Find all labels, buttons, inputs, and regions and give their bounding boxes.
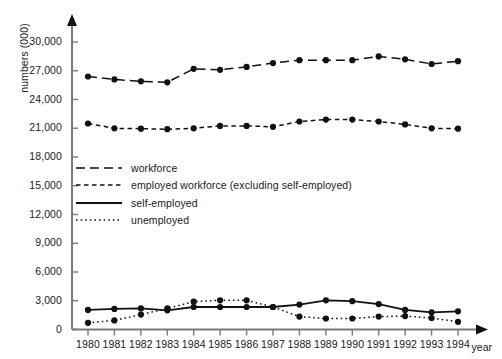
legend-label: workforce xyxy=(131,162,177,174)
legend-label: employed workforce (excluding self-emplo… xyxy=(131,179,352,191)
legend-label: self-employed xyxy=(131,197,198,209)
legend-line-swatch xyxy=(76,215,122,225)
legend-item: unemployed xyxy=(76,212,352,230)
legend-line-swatch xyxy=(76,163,122,173)
series-employed xyxy=(85,117,461,133)
series-workforce xyxy=(85,53,461,85)
legend-line-swatch xyxy=(76,180,122,190)
legend-label: unemployed xyxy=(131,214,189,226)
chart-legend: workforceemployed workforce (excluding s… xyxy=(76,159,352,229)
legend-item: workforce xyxy=(76,159,352,177)
legend-item: employed workforce (excluding self-emplo… xyxy=(76,177,352,195)
legend-line-swatch xyxy=(76,198,122,208)
employment-line-chart: numbers (000) year 03,0006,0009,00012,00… xyxy=(0,0,502,359)
legend-item: self-employed xyxy=(76,194,352,212)
